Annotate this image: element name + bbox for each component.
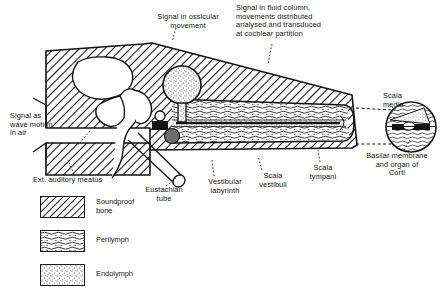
- cochlear-partition-inset: [386, 102, 436, 152]
- legend-swatch-soundproof-bone: [40, 196, 85, 218]
- label-basilar-membrane-organ-of-corti: Basilar membrane and organ of Corti: [352, 152, 442, 178]
- endolymph-sac: [163, 66, 201, 104]
- label-eustachian-tube: Eustachian tube: [132, 186, 196, 203]
- legend-label-perilymph: Perilymph: [96, 236, 129, 245]
- endolymph-stem: [178, 103, 186, 122]
- legend-swatch-perilymph: [40, 230, 85, 252]
- annotation-ossicular-movement: Signal in ossicular movement: [136, 13, 240, 30]
- scala-tympani-fill: [172, 126, 350, 142]
- label-scala-vestibuli: Scala vestibuli: [246, 172, 300, 189]
- label-scala-tympani: Scala tympani: [298, 164, 348, 181]
- oval-window: [152, 121, 168, 130]
- label-ext-auditory-meatus: Ext. auditory meatus: [33, 176, 143, 185]
- cochlear-duct: [172, 100, 350, 142]
- annotation-fluid-column: Signal in fluid column, movements distri…: [236, 4, 360, 38]
- legend-swatch-endolymph: [40, 264, 85, 286]
- soundproof-bone-lower: [46, 143, 150, 175]
- legend-label-soundproof-bone: Soundproof bone: [96, 198, 134, 216]
- diagram-canvas: Signal in ossicular movement Signal in f…: [0, 0, 445, 294]
- legend-label-endolymph: Endolymph: [96, 270, 133, 279]
- annotation-wave-motion-in-air: Signal as wave motion in air: [10, 112, 80, 138]
- stapes-footplate: [155, 111, 165, 121]
- round-window: [165, 129, 180, 144]
- label-scala-media: Scala media: [383, 92, 431, 109]
